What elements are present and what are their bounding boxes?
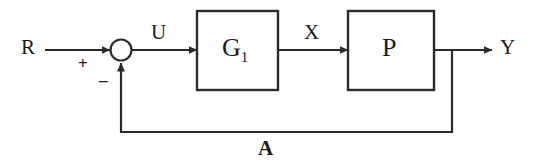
summing-junction-plus-sign: + — [78, 55, 88, 72]
signal-label-r: R — [21, 37, 35, 58]
summing-junction-minus-sign: – — [99, 72, 108, 89]
block-label-g1-subscript: 1 — [241, 49, 249, 65]
feedback-label-a: A — [258, 138, 273, 159]
block-label-g1-main: G — [222, 33, 241, 62]
block-diagram-canvas: R + – U G1 X P Y A — [0, 0, 538, 165]
block-label-g1: G1 — [222, 35, 248, 65]
summing-junction-circle — [111, 40, 132, 61]
signal-label-x: X — [304, 22, 319, 43]
signal-label-u: U — [151, 22, 166, 43]
block-label-p: P — [382, 35, 396, 61]
signal-label-y: Y — [500, 37, 515, 58]
